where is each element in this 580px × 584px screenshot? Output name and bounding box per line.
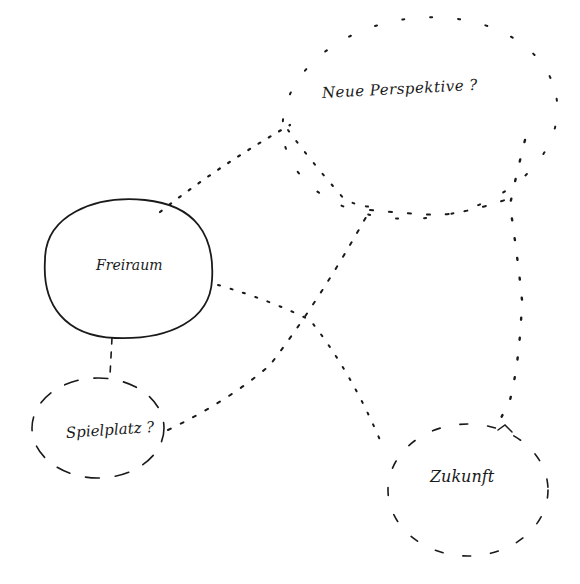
node-freiraum-label: Freiraum xyxy=(96,257,163,273)
pen-mark xyxy=(498,425,512,432)
edge-freiraum-neue-perspektive xyxy=(160,125,290,212)
edge-spielplatz-neue-perspektive xyxy=(168,210,370,430)
edge-neue-perspektive-branch xyxy=(288,130,375,207)
edge-freiraum-spielplatz xyxy=(110,338,112,375)
node-neue-perspektive-outline[interactable] xyxy=(269,0,570,236)
edge-freiraum-zukunft xyxy=(218,285,380,440)
node-zukunft-outline[interactable] xyxy=(388,424,548,556)
node-zukunft-label: Zukunft xyxy=(430,467,494,486)
mind-map-canvas xyxy=(0,0,580,584)
edge-center-horizontal xyxy=(370,200,505,215)
edge-neue-perspektive-zukunft xyxy=(495,140,525,430)
